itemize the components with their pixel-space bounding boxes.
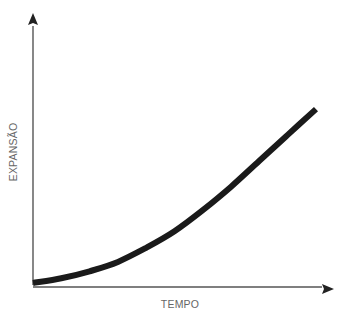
y-axis-arrow-icon bbox=[28, 13, 38, 25]
chart: EXPANSÃO TEMPO bbox=[0, 0, 346, 318]
y-axis-label: EXPANSÃO bbox=[7, 123, 19, 182]
y-axis bbox=[28, 13, 38, 285]
expansion-curve bbox=[33, 109, 316, 283]
x-axis bbox=[33, 284, 334, 294]
x-axis-label: TEMPO bbox=[161, 298, 199, 310]
x-axis-arrow-icon bbox=[322, 284, 334, 294]
